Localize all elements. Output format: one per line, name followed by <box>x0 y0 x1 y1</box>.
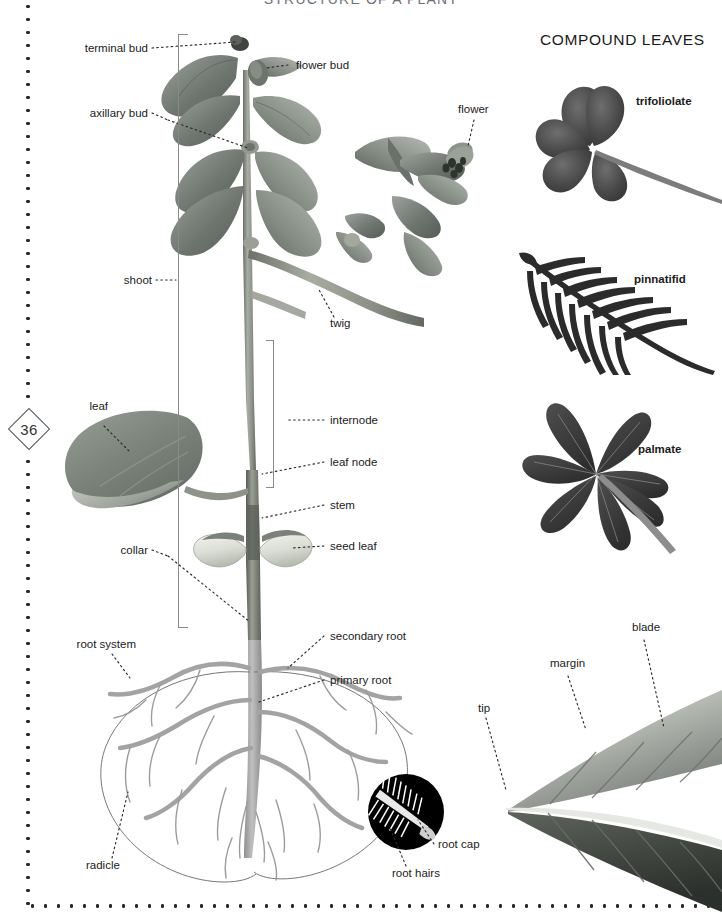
label-terminal-bud: terminal bud <box>85 43 148 55</box>
label-root-system: root system <box>77 639 136 651</box>
label-leaf: leaf <box>89 401 108 413</box>
palmate-leaf-illustration <box>518 388 722 558</box>
trifoliolate-leaf-illustration <box>530 70 722 210</box>
shoot-bracket <box>178 34 188 628</box>
label-blade: blade <box>632 622 660 634</box>
palmate-label: palmate <box>638 444 681 456</box>
label-margin: margin <box>550 658 585 670</box>
label-radicle: radicle <box>86 860 120 872</box>
label-stem: stem <box>330 500 355 512</box>
label-primary-root: primary root <box>330 675 391 687</box>
label-seed-leaf: seed leaf <box>330 541 377 553</box>
label-secondary-root: secondary root <box>330 631 406 643</box>
label-leaf-node: leaf node <box>330 457 377 469</box>
label-axillary-bud: axillary bud <box>90 108 148 120</box>
page-number-text: 36 <box>8 408 50 450</box>
label-shoot: shoot <box>124 275 152 287</box>
compound-leaves-title: COMPOUND LEAVES <box>540 31 705 49</box>
label-root-cap: root cap <box>438 839 480 851</box>
label-internode: internode <box>330 415 378 427</box>
pinnatifid-leaf-illustration <box>505 245 722 375</box>
label-tip: tip <box>478 703 490 715</box>
label-root-hairs: root hairs <box>392 868 440 880</box>
trifoliolate-label: trifoliolate <box>636 96 692 108</box>
label-twig: twig <box>330 318 350 330</box>
page-number-badge: 36 <box>8 408 50 450</box>
label-collar: collar <box>121 545 148 557</box>
pinnatifid-label: pinnatifid <box>634 274 686 286</box>
label-flower-bud: flower bud <box>296 60 349 72</box>
internode-bracket <box>266 340 274 488</box>
label-flower: flower <box>458 104 489 116</box>
plant-structure-page: STRUCTURE OF A PLANT 36 <box>0 0 722 912</box>
leaf-detail-illustration <box>500 690 722 912</box>
